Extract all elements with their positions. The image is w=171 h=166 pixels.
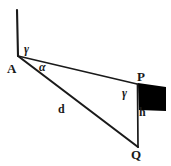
figure-canvas (0, 0, 171, 166)
vertical-reference-line (17, 10, 18, 56)
point-label-p: P (137, 70, 145, 83)
vertical-segment-p-to-q (138, 84, 139, 147)
point-label-a: A (7, 62, 16, 75)
geometry-figure: A P Q γ α γ d h (0, 0, 171, 166)
length-label-h: h (139, 106, 146, 118)
angle-label-alpha-at-a: α (39, 61, 46, 73)
length-label-d: d (58, 103, 65, 115)
angle-label-gamma-at-p: γ (122, 87, 127, 99)
point-label-q: Q (131, 148, 141, 161)
figure-background (0, 0, 171, 166)
angle-label-gamma-at-a: γ (24, 43, 29, 55)
